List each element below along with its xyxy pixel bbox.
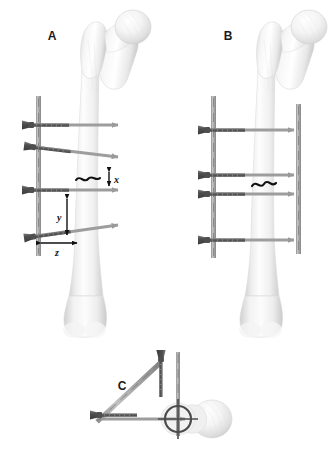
panel-letter-b: B (224, 29, 233, 43)
femur-medial-condyle-b (239, 322, 261, 338)
femur-lateral-condyle-b (260, 322, 282, 338)
femur-lateral-condyle-a (84, 322, 106, 338)
panel-letter-c: C (118, 379, 127, 393)
fixator-rod-b-right[interactable] (296, 104, 301, 254)
panel-letter-a: A (48, 29, 57, 43)
femur-head-b (291, 10, 327, 44)
femur-fixation-figure: x y z A (0, 0, 328, 460)
fixator-rod-a[interactable] (36, 96, 41, 256)
figure-container: x y z A (0, 0, 328, 460)
femur-head-a (115, 10, 151, 44)
fixator-rod-b-left[interactable] (211, 96, 216, 258)
dimension-z-label: z (54, 247, 59, 258)
dimension-x-label: x (113, 174, 119, 185)
femur-medial-condyle-a (63, 322, 85, 338)
dimension-y-label: y (56, 212, 62, 223)
